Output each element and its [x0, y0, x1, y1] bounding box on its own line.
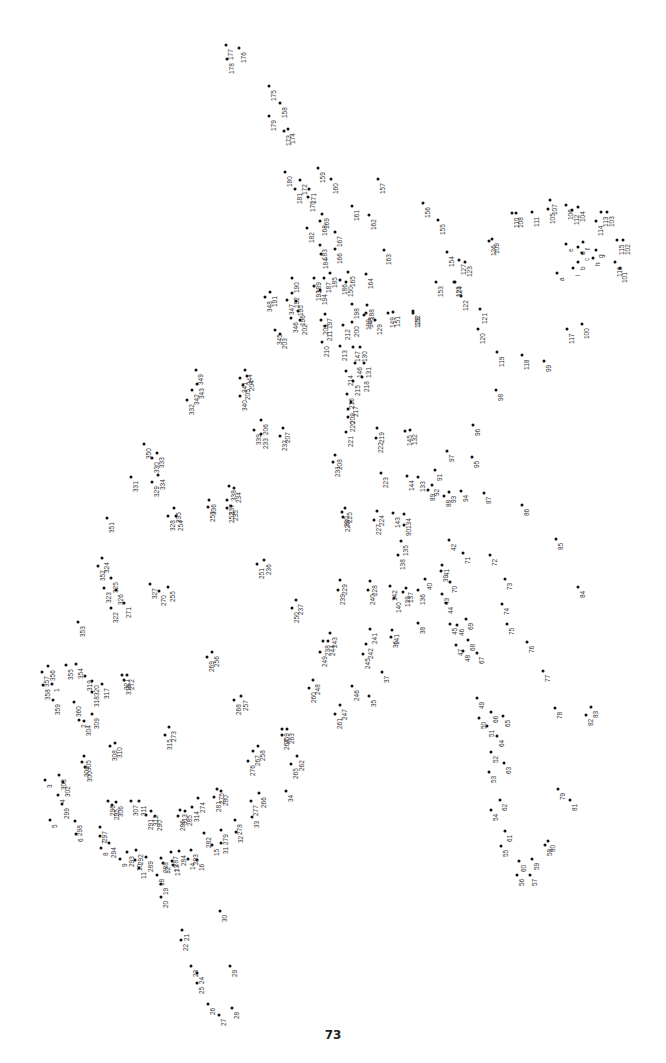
number-dot-label: 344 — [247, 374, 254, 385]
number-dot-177 — [225, 44, 228, 47]
number-dot-label: 175 — [271, 90, 278, 101]
number-dot-label: 257 — [243, 700, 250, 711]
number-dot-label: 199 — [366, 319, 373, 330]
number-dot-317 — [101, 683, 104, 686]
number-dot-label: 162 — [371, 219, 378, 230]
number-dot-label: 96 — [475, 429, 482, 436]
number-dot-111 — [531, 211, 534, 214]
number-dot-27 — [218, 1014, 221, 1017]
number-dot-321 — [121, 674, 124, 677]
number-dot-296 — [107, 800, 110, 803]
number-dot-303 — [58, 774, 61, 777]
number-dot-141 — [391, 629, 394, 632]
number-dot-257 — [240, 695, 243, 698]
number-dot-label: 349 — [198, 374, 205, 385]
number-dot-207 — [282, 427, 285, 430]
number-dot-label: 112 — [574, 214, 581, 224]
number-dot-243 — [329, 632, 332, 635]
number-dot-label: 3 — [47, 784, 54, 788]
number-dot-label: 345 — [277, 334, 284, 345]
number-dot-332 — [186, 399, 189, 402]
number-dot-label: 1 — [54, 688, 61, 692]
number-dot-label: 213 — [342, 350, 349, 361]
number-dot-label: 185 — [332, 277, 339, 288]
number-dot-80 — [547, 840, 550, 843]
number-dot-155 — [437, 219, 440, 222]
number-dot-label: 271 — [126, 607, 133, 618]
number-dot-157 — [377, 178, 380, 181]
number-dot-label: 281 — [216, 801, 223, 812]
number-dot-103 — [606, 211, 609, 214]
number-dot-label: 339 — [256, 434, 263, 445]
number-dot-label: 81 — [572, 804, 579, 811]
number-dot-225 — [344, 507, 347, 510]
number-dot-label: 357 — [44, 676, 51, 687]
number-dot-96 — [472, 424, 475, 427]
number-dot-164 — [365, 273, 368, 276]
number-dot-83 — [590, 706, 593, 709]
number-dot-71 — [462, 552, 465, 555]
number-dot-label: 187 — [326, 282, 333, 293]
number-dot-label: 141 — [394, 634, 401, 645]
letter-dot-d — [577, 246, 580, 249]
number-dot-label: 307 — [133, 805, 140, 816]
number-dot-49 — [476, 697, 479, 700]
number-dot-label: 212 — [345, 329, 352, 340]
number-dot-label: 360 — [76, 706, 83, 717]
number-dot-255 — [167, 586, 170, 589]
number-dot-153 — [435, 281, 438, 284]
number-dot-191 — [269, 291, 272, 294]
number-dot-label: 72 — [492, 559, 499, 566]
number-dot-62 — [499, 799, 502, 802]
number-dot-label: 20 — [163, 901, 170, 908]
number-dot-label: 181 — [297, 193, 304, 204]
number-dot-220 — [347, 416, 350, 419]
number-dot-236 — [263, 559, 266, 562]
number-dot-label: 331 — [133, 481, 140, 492]
number-dot-276 — [247, 760, 250, 763]
number-dot-label: 335 — [176, 512, 183, 523]
number-dot-189 — [313, 277, 316, 280]
number-dot-77 — [542, 670, 545, 673]
number-dot-label: 206 — [263, 424, 270, 435]
number-dot-label: 120 — [480, 333, 487, 344]
number-dot-70 — [449, 581, 452, 584]
number-dot-label: 107 — [552, 204, 559, 215]
number-dot-187 — [323, 277, 326, 280]
number-dot-label: 202 — [302, 324, 309, 335]
number-dot-label: 347 — [289, 304, 296, 315]
number-dot-label: 65 — [505, 720, 512, 727]
number-dot-347 — [286, 299, 289, 302]
number-dot-label: 129 — [377, 324, 384, 335]
number-dot-289 — [145, 856, 148, 859]
number-dot-242 — [365, 643, 368, 646]
number-dot-label: 38 — [420, 627, 427, 634]
number-dot-315 — [164, 734, 167, 737]
number-dot-label: 135 — [403, 545, 410, 556]
number-dot-267 — [252, 750, 255, 753]
number-dot-3 — [44, 779, 47, 782]
number-dot-277 — [250, 800, 253, 803]
number-dot-label: 142 — [392, 590, 399, 601]
number-dot-297 — [99, 826, 102, 829]
number-dot-label: 61 — [507, 835, 514, 842]
number-dot-118 — [521, 354, 524, 357]
letter-dot-label: a — [559, 277, 566, 281]
number-dot-label: 315 — [167, 739, 174, 750]
letter-dot-label: i — [575, 274, 582, 275]
number-dot-156 — [422, 202, 425, 205]
number-dot-label: 24 — [199, 977, 206, 984]
number-dot-307 — [130, 800, 133, 803]
number-dot-97 — [446, 450, 449, 453]
number-dot-label: 317 — [104, 688, 111, 699]
number-dot-344 — [244, 369, 247, 372]
number-dot-label: 163 — [386, 254, 393, 265]
number-dot-23 — [190, 965, 193, 968]
number-dot-label: 31 — [223, 847, 230, 854]
number-dot-216 — [346, 393, 349, 396]
number-dot-label: 211 — [327, 330, 334, 340]
number-dot-label: 265 — [293, 768, 300, 779]
number-dot-label: 348 — [267, 301, 274, 312]
number-dot-312 — [150, 810, 153, 813]
number-dot-110 — [511, 212, 514, 215]
